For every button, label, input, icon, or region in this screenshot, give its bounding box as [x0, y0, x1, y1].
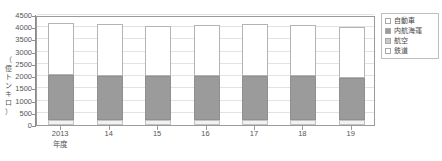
bar-segment: [290, 76, 316, 120]
x-tick-label: 16: [201, 130, 209, 138]
y-tick-mark: [32, 102, 36, 103]
bar-segment: [97, 24, 123, 76]
legend-label: 内航海運: [394, 27, 422, 35]
chart-figure: （ 億 ト ン キ ロ ） 05001000150020002500300035…: [0, 0, 442, 161]
y-tick-mark: [32, 114, 36, 115]
x-tick-label: 18: [298, 130, 306, 138]
bar-segment: [48, 120, 74, 125]
legend-swatch-icon: [385, 18, 391, 24]
y-tick-label: 3000: [2, 49, 32, 57]
bar-segment: [339, 120, 365, 125]
bar-segment: [290, 120, 316, 125]
bar-stack[interactable]: [97, 15, 123, 125]
bar-segment: [339, 27, 365, 78]
bar-segment: [145, 76, 171, 120]
bar-stack[interactable]: [194, 15, 220, 125]
y-tick-mark: [32, 126, 36, 127]
legend-swatch-icon: [385, 48, 391, 54]
bar-segment: [97, 120, 123, 125]
x-tick-label: 15: [153, 130, 161, 138]
y-tick-label: 4000: [2, 24, 32, 32]
bar-segment: [339, 78, 365, 120]
bar-stack[interactable]: [242, 15, 268, 125]
x-tick-label: 2013: [52, 130, 69, 138]
x-axis-unit-label: 年度: [53, 141, 67, 149]
bar-stack[interactable]: [48, 15, 74, 125]
bar-segment: [194, 25, 220, 76]
chart-legend: 自動車 内航海運 航空 鉄道: [381, 13, 439, 59]
bar-segment: [97, 76, 123, 121]
bar-segment: [242, 76, 268, 120]
bar-segment: [48, 23, 74, 75]
y-tick-label: 1500: [2, 86, 32, 94]
y-tick-label: 0: [2, 122, 32, 130]
y-tick-mark: [32, 28, 36, 29]
y-tick-label: 500: [2, 110, 32, 118]
y-tick-label: 2500: [2, 61, 32, 69]
y-tick-mark: [32, 89, 36, 90]
bar-segment: [48, 75, 74, 120]
legend-swatch-icon: [385, 38, 391, 44]
y-tick-mark: [32, 77, 36, 78]
bar-segment: [145, 120, 171, 125]
bar-segment: [242, 24, 268, 76]
y-tick-mark: [32, 53, 36, 54]
plot-area: [36, 16, 375, 126]
bar-segment: [194, 76, 220, 120]
y-tick-label: 3500: [2, 37, 32, 45]
y-tick-mark: [32, 16, 36, 17]
bar-stack[interactable]: [290, 15, 316, 125]
bar-segment: [242, 120, 268, 125]
y-tick-label: 2000: [2, 73, 32, 81]
y-tick-mark: [32, 65, 36, 66]
bar-segment: [145, 26, 171, 76]
y-tick-label: 1000: [2, 98, 32, 106]
bar-segment: [290, 25, 316, 76]
legend-item-coastal-shipping[interactable]: 内航海運: [385, 26, 436, 36]
legend-swatch-icon: [385, 28, 391, 34]
bar-segment: [194, 120, 220, 125]
y-tick-label: 4500: [2, 12, 32, 20]
bar-stack[interactable]: [145, 15, 171, 125]
legend-label: 鉄道: [394, 47, 408, 55]
x-tick-label: 14: [104, 130, 112, 138]
y-tick-mark: [32, 40, 36, 41]
bar-stack[interactable]: [339, 15, 365, 125]
x-tick-label: 19: [347, 130, 355, 138]
x-tick-label: 17: [250, 130, 258, 138]
legend-item-aviation[interactable]: 航空: [385, 36, 436, 46]
legend-label: 航空: [394, 37, 408, 45]
legend-item-railway[interactable]: 鉄道: [385, 46, 436, 56]
legend-label: 自動車: [394, 17, 415, 25]
legend-item-automobile[interactable]: 自動車: [385, 16, 436, 26]
